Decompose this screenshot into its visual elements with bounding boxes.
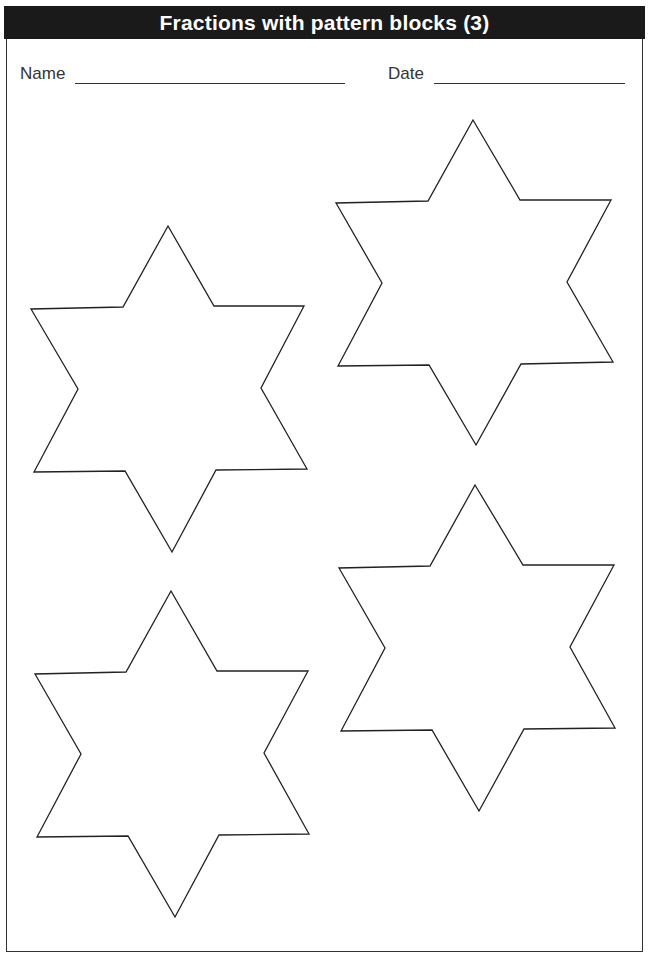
star-outline-1 [31, 226, 307, 552]
star-shapes [0, 0, 649, 960]
star-outline-4 [339, 485, 615, 811]
star-outline-2 [336, 120, 613, 445]
star-outline-3 [35, 591, 309, 917]
